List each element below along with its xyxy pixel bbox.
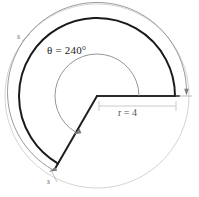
arc-length-label-lower: s (47, 178, 50, 186)
arc-length-measure-arc (8, 2, 187, 169)
arc-length-label-upper: s (17, 33, 20, 41)
radius-line-angled (56, 96, 97, 167)
main-sector-arc (19, 18, 175, 164)
geometry-figure: θ = 240° r = 4 s s (0, 0, 199, 197)
arc-arrowhead-right-icon (184, 89, 189, 96)
figure-canvas (0, 0, 199, 197)
radius-label: r = 4 (118, 108, 137, 118)
s-label-leader-upper (22, 34, 30, 41)
theta-angle-label: θ = 240° (47, 45, 86, 56)
theta-angle-arc (55, 54, 139, 132)
